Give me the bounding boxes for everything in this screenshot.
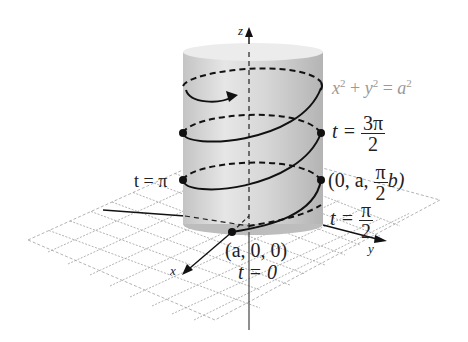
z-axis-label: z xyxy=(238,24,243,37)
z-axis-arrowhead-icon xyxy=(245,27,253,37)
label-t-3pi-over-2: t = 3π2 xyxy=(332,113,385,154)
label-t-pi: t = π xyxy=(134,172,167,190)
x-axis-label: x xyxy=(170,264,176,277)
label-t-pi-over-2: t = π2 xyxy=(330,200,373,241)
surface-equation: x2 + y2 = a2 xyxy=(332,78,412,97)
y-axis-label: y xyxy=(368,242,374,255)
label-point-a-0-0: (a, 0, 0) xyxy=(225,240,287,260)
label-point-0-a-pi-half-b: (0, a, π2b) xyxy=(328,162,404,203)
y-axis-arrowhead-icon xyxy=(374,235,387,243)
label-t-0: t = 0 xyxy=(238,262,277,282)
